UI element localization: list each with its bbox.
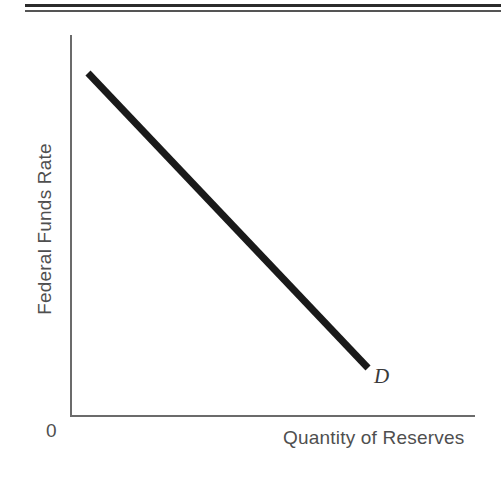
economics-demand-chart-figure: Federal Funds Rate Quantity of Reserves …	[0, 0, 501, 477]
demand-curve-line	[88, 73, 368, 368]
plot-area	[0, 0, 501, 477]
demand-curve-label: D	[374, 364, 389, 389]
